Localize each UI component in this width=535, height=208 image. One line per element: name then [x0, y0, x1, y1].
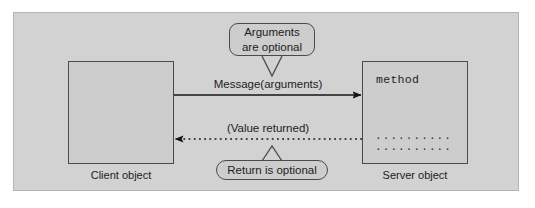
diagram-vector-layer: [0, 0, 535, 208]
diagram-figure: Client object method .......... ........…: [0, 0, 535, 208]
return-callout-tail: [262, 146, 282, 161]
arguments-callout-tail: [262, 56, 282, 76]
